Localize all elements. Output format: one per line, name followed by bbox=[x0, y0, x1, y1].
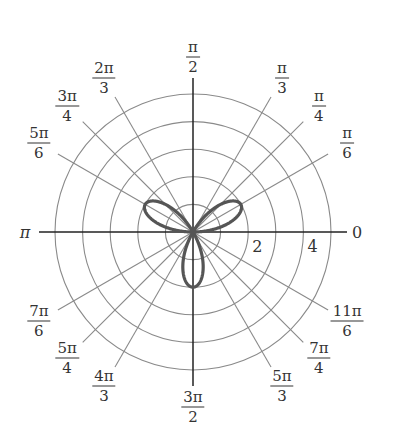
radial-tick-labels: 24 bbox=[252, 237, 317, 256]
spoke-line bbox=[193, 154, 328, 232]
angle-label: 11π6 bbox=[331, 303, 364, 340]
label-numerator: π bbox=[186, 39, 200, 58]
label-numerator: 5π bbox=[55, 339, 78, 358]
label-numerator: π bbox=[340, 125, 354, 144]
label-denominator: 3 bbox=[275, 78, 289, 96]
label-denominator: 4 bbox=[55, 358, 78, 376]
angle-label: π bbox=[20, 224, 31, 241]
spoke-line bbox=[193, 97, 271, 232]
angle-label: 2π3 bbox=[92, 59, 115, 96]
label-numerator: 11π bbox=[331, 303, 364, 322]
spoke-line bbox=[58, 154, 193, 232]
angle-label: π2 bbox=[186, 39, 200, 76]
angle-label: 7π4 bbox=[307, 339, 330, 376]
spoke-line bbox=[115, 232, 193, 367]
label-denominator: 6 bbox=[340, 144, 354, 162]
label-denominator: 4 bbox=[307, 358, 330, 376]
label-denominator: 4 bbox=[312, 107, 326, 125]
spoke-line bbox=[115, 97, 193, 232]
label-numerator: 5π bbox=[270, 368, 293, 387]
label-numerator: π bbox=[312, 88, 326, 107]
label-numerator: 3π bbox=[55, 88, 78, 107]
angle-label: π6 bbox=[340, 125, 354, 162]
label-denominator: 4 bbox=[55, 107, 78, 125]
label-denominator: 6 bbox=[27, 322, 50, 340]
angle-label: 4π3 bbox=[92, 368, 115, 405]
label-denominator: 2 bbox=[181, 408, 204, 426]
label-numerator: 4π bbox=[92, 368, 115, 387]
angle-label: 5π6 bbox=[27, 125, 50, 162]
angle-label: 7π6 bbox=[27, 303, 50, 340]
label-numerator: 7π bbox=[307, 339, 330, 358]
angle-label: 5π3 bbox=[270, 368, 293, 405]
spoke-line bbox=[58, 232, 193, 310]
label-numerator: 7π bbox=[27, 303, 50, 322]
radial-tick-label: 4 bbox=[307, 237, 317, 256]
label-denominator: 2 bbox=[186, 58, 200, 76]
angle-label: π4 bbox=[312, 88, 326, 125]
angle-label: π3 bbox=[275, 59, 289, 96]
label-numerator: 5π bbox=[27, 125, 50, 144]
label-numerator: 2π bbox=[92, 59, 115, 78]
spoke-line bbox=[83, 122, 193, 232]
label-numerator: π bbox=[275, 59, 289, 78]
label-denominator: 3 bbox=[92, 78, 115, 96]
label-denominator: 6 bbox=[331, 322, 364, 340]
radial-tick-label: 2 bbox=[252, 237, 262, 256]
label-denominator: 3 bbox=[270, 387, 293, 405]
label-denominator: 3 bbox=[92, 387, 115, 405]
spoke-line bbox=[193, 122, 303, 232]
angle-label: 3π4 bbox=[55, 88, 78, 125]
label-numerator: 3π bbox=[181, 389, 204, 408]
spoke-line bbox=[83, 232, 193, 342]
spoke-line bbox=[193, 232, 303, 342]
angle-label: 5π4 bbox=[55, 339, 78, 376]
label-denominator: 6 bbox=[27, 144, 50, 162]
angle-label: 0 bbox=[352, 224, 362, 241]
angle-label: 3π2 bbox=[181, 389, 204, 426]
